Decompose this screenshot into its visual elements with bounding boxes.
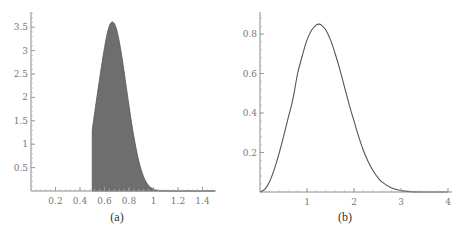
x-tick-label: 1.2 [171,196,185,206]
x-tick-label: 0.2 [48,196,62,206]
y-tick-label: 2.5 [14,69,29,79]
y-tick-label: 3.5 [14,22,29,32]
density-curve [260,24,448,192]
x-tick-label: 0.4 [73,196,88,206]
x-tick-label: 0.6 [97,196,112,206]
figure: 0.20.40.60.811.21.40.511.522.533.5 (a) 1… [0,0,468,237]
shaded-density-area [92,22,215,191]
y-tick-label: 0.5 [14,163,29,173]
y-tick-label: 0.2 [243,148,257,158]
caption-b: (b) [338,210,352,224]
y-tick-label: 1.5 [14,116,29,126]
y-tick-label: 2 [22,92,28,102]
x-tick-label: 1.4 [195,196,210,206]
y-tick-label: 0.6 [243,69,258,79]
chart-b: 12340.20.40.60.8 (b) [243,12,452,224]
x-tick-label: 1 [304,197,310,207]
x-tick-label: 0.8 [122,196,137,206]
y-tick-label: 3 [22,46,28,56]
x-tick-label: 3 [398,197,404,207]
x-tick-label: 1 [151,196,157,206]
x-tick-label: 4 [445,197,451,207]
chart-a: 0.20.40.60.811.21.40.511.522.533.5 (a) [14,12,216,224]
axis-ticks: 12340.20.40.60.8 [243,18,451,207]
y-tick-label: 1 [22,139,28,149]
y-tick-label: 0.8 [243,29,258,39]
x-tick-label: 2 [351,197,357,207]
y-tick-label: 0.4 [243,108,258,118]
caption-a: (a) [110,210,123,224]
